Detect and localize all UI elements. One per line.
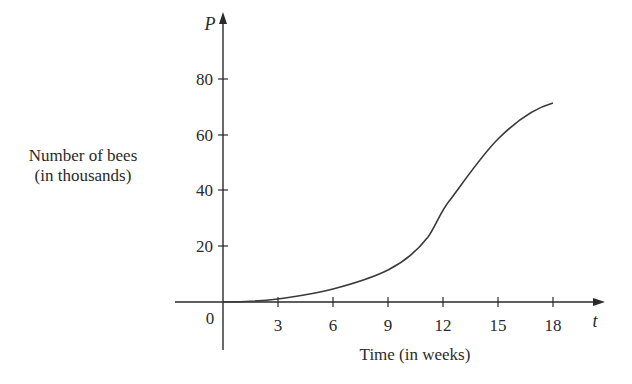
- y-axis-arrow-icon: [219, 12, 227, 24]
- x-tick-label: 9: [384, 316, 393, 335]
- chart-canvas: 80 60 40 20 3 6 9 12 15 18 0 t P: [0, 0, 632, 384]
- x-tick-label: 6: [329, 316, 338, 335]
- x-variable-label: t: [592, 311, 598, 331]
- population-curve: [223, 103, 553, 302]
- origin-label: 0: [206, 309, 215, 328]
- x-axis-arrow-icon: [593, 298, 605, 306]
- x-tick-label: 18: [545, 316, 562, 335]
- x-axis-title: Time (in weeks): [320, 345, 510, 365]
- y-tick-label: 20: [196, 237, 213, 256]
- y-tick-label: 80: [196, 70, 213, 89]
- x-tick-label: 12: [435, 316, 452, 335]
- y-tick-label: 40: [196, 181, 213, 200]
- y-axis-title-line2: (in thousands): [0, 166, 166, 186]
- y-tick-label: 60: [196, 126, 213, 145]
- x-tick-label: 3: [274, 316, 283, 335]
- y-variable-label: P: [204, 14, 216, 34]
- y-axis-title: Number of bees (in thousands): [0, 146, 166, 186]
- y-axis-title-line1: Number of bees: [0, 146, 166, 166]
- x-tick-label: 15: [490, 316, 507, 335]
